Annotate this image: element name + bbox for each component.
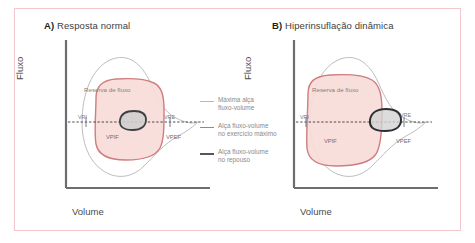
panel-a-plot: Reserva de fluxo VRI VRE VPIF VPEF <box>58 38 218 198</box>
panel-b-rest-loop <box>370 109 401 131</box>
panel-b-y-axis-label: Fluxo <box>242 57 253 80</box>
panel-a-marker: A) <box>44 20 54 31</box>
panel-b-title-text: Hiperinsuflação dinâmica <box>285 20 394 31</box>
panel-a-rest-loop <box>120 111 146 130</box>
panel-a-title-text: Resposta normal <box>57 20 130 31</box>
panel-a-y-axis-label: Fluxo <box>14 57 25 80</box>
panel-b-x-axis-label: Volume <box>300 206 332 217</box>
panel-b-title: B) Hiperinsuflação dinâmica <box>272 20 394 31</box>
figure-root: A) Resposta normal Fluxo Volume <box>0 0 475 243</box>
legend-dark-line-icon <box>200 150 214 157</box>
legend-red-line-icon <box>200 124 214 131</box>
panel-a-title: A) Resposta normal <box>44 20 130 31</box>
panel-b-plot: Reserva de fluxo VRI VRE VPIF VPEF <box>286 38 446 198</box>
panel-a-svg <box>58 38 218 198</box>
panel-b: B) Hiperinsuflação dinâmica Fluxo Volume <box>248 8 460 231</box>
legend-grey-line-icon <box>200 98 214 105</box>
panel-a-x-axis-label: Volume <box>72 206 104 217</box>
panel-b-marker: B) <box>272 20 282 31</box>
panel-b-svg <box>286 38 446 198</box>
legend-rest-loop-line2: no repouso <box>218 156 250 163</box>
